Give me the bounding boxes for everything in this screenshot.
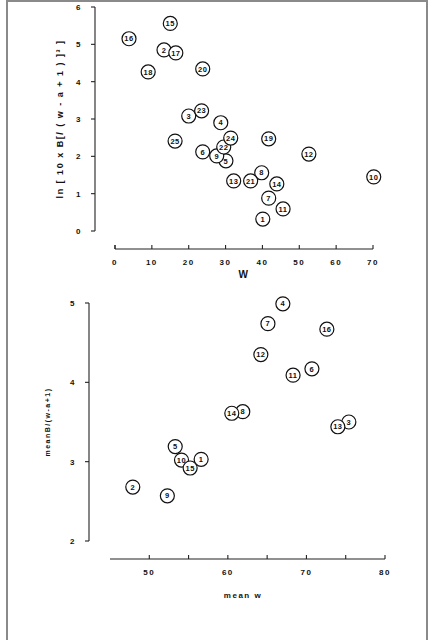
data-point: 16 (320, 322, 334, 336)
point-label: 13 (229, 177, 238, 186)
point-label: 24 (226, 134, 236, 143)
data-point: 15 (183, 461, 197, 475)
x-tick-label: 70 (300, 568, 312, 577)
x-tick-label: 40 (256, 258, 268, 267)
point-label: 16 (124, 34, 133, 43)
y-tick-label: 3 (76, 115, 82, 124)
y-tick-label: 4 (76, 78, 82, 87)
data-point: 12 (302, 147, 316, 161)
x-tick-label: 60 (222, 568, 234, 577)
y-tick-label: 4 (70, 378, 76, 387)
data-point: 5 (168, 440, 182, 454)
data-point: 7 (262, 191, 276, 205)
data-point: 11 (286, 368, 300, 382)
point-label: 21 (246, 177, 255, 186)
data-point: 4 (276, 297, 290, 311)
point-label: 16 (322, 325, 331, 334)
x-tick-label: 0 (112, 258, 118, 267)
point-label: 6 (200, 148, 205, 157)
data-point: 7 (261, 317, 275, 331)
point-label: 8 (240, 407, 245, 416)
point-label: 12 (304, 150, 313, 159)
point-label: 6 (310, 365, 315, 374)
point-label: 13 (333, 422, 342, 431)
point-label: 19 (264, 134, 273, 143)
point-label: 1 (260, 215, 265, 224)
x-tick-label: 80 (379, 568, 391, 577)
y-tick-label: 2 (76, 152, 82, 161)
point-label: 5 (224, 157, 229, 166)
x-axis-title: W (239, 269, 250, 280)
x-tick-label: 50 (143, 568, 155, 577)
point-label: 11 (279, 205, 288, 214)
point-label: 17 (171, 49, 180, 58)
point-label: 10 (369, 173, 378, 182)
y-tick-label: 5 (76, 40, 82, 49)
data-point: 20 (196, 62, 210, 76)
bottom-scatter-plot: 2345meanB/(w-a+1)50607080mean w123456789… (44, 297, 391, 600)
point-label: 7 (266, 319, 271, 328)
point-label: 15 (185, 464, 194, 473)
point-label: 23 (197, 106, 206, 115)
point-label: 25 (170, 137, 179, 146)
point-label: 2 (130, 483, 135, 492)
data-point: 12 (254, 348, 268, 362)
point-label: 9 (214, 152, 219, 161)
data-point: 14 (270, 177, 284, 191)
data-point: 2 (126, 480, 140, 494)
point-label: 15 (166, 19, 175, 28)
data-point: 21 (244, 174, 258, 188)
point-label: 7 (266, 194, 271, 203)
y-tick-label: 1 (76, 190, 82, 199)
point-label: 18 (143, 68, 152, 77)
x-axis-title: mean w (224, 591, 262, 600)
data-point: 24 (224, 131, 238, 145)
point-label: 4 (218, 118, 223, 127)
data-point: 10 (367, 170, 381, 184)
data-point: 13 (331, 420, 345, 434)
point-label: 3 (347, 418, 352, 427)
point-label: 5 (173, 442, 178, 451)
x-tick-label: 20 (183, 258, 195, 267)
x-tick-label: 30 (220, 258, 232, 267)
y-tick-label: 0 (76, 227, 82, 236)
data-point: 1 (256, 212, 270, 226)
point-label: 1 (199, 455, 204, 464)
data-point: 15 (163, 16, 177, 30)
data-point: 19 (262, 132, 276, 146)
data-point: 25 (168, 134, 182, 148)
top-scatter-plot: 0123456ln [ 10 x B[/ ( w - a + 1 ) ]³ ]0… (55, 3, 381, 280)
data-point: 4 (214, 116, 228, 130)
point-label: 14 (272, 180, 282, 189)
data-point: 14 (225, 406, 239, 420)
y-tick-label: 3 (70, 458, 76, 467)
y-axis-title: meanB/(w-a+1) (44, 387, 52, 456)
point-label: 2 (162, 46, 167, 55)
point-label: 14 (227, 409, 237, 418)
x-tick-label: 60 (330, 258, 342, 267)
point-label: 3 (186, 112, 191, 121)
data-point: 6 (305, 362, 319, 376)
y-tick-label: 6 (76, 3, 82, 12)
data-point: 9 (160, 489, 174, 503)
data-point: 18 (141, 65, 155, 79)
point-label: 9 (165, 491, 170, 500)
y-axis-title: ln [ 10 x B[/ ( w - a + 1 ) ]³ ] (55, 40, 65, 199)
point-label: 20 (198, 65, 207, 74)
point-label: 8 (259, 168, 264, 177)
data-point: 11 (276, 202, 290, 216)
data-point: 23 (195, 104, 209, 118)
data-point: 13 (227, 174, 241, 188)
y-tick-label: 5 (70, 299, 76, 308)
x-tick-label: 70 (367, 258, 379, 267)
data-point: 16 (122, 32, 136, 46)
data-point: 17 (169, 46, 183, 60)
data-point: 6 (196, 145, 210, 159)
point-label: 4 (281, 299, 286, 308)
point-label: 12 (256, 350, 265, 359)
point-label: 11 (289, 371, 298, 380)
x-tick-label: 50 (293, 258, 305, 267)
data-point: 3 (182, 109, 196, 123)
y-tick-label: 2 (70, 537, 76, 546)
